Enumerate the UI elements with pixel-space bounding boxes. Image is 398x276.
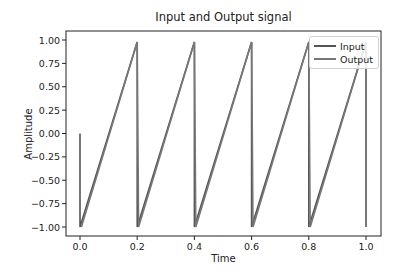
y-tick-label: 0.25 (39, 105, 60, 116)
x-tick-label: 0.2 (130, 241, 145, 252)
x-tick-label: 0.4 (187, 241, 202, 252)
series-output (81, 42, 366, 227)
legend: Input Output (309, 36, 379, 69)
x-tick-label: 1.0 (358, 241, 373, 252)
y-tick-label: −0.75 (31, 198, 60, 209)
y-tick-label: 0.75 (39, 58, 60, 69)
x-tick-label: 0.6 (244, 241, 259, 252)
y-tick-label: 0.00 (39, 128, 60, 139)
x-tick-label: 0.8 (301, 241, 316, 252)
y-tick-label: 0.50 (39, 81, 60, 92)
legend-item-input: Input (314, 40, 365, 52)
legend-item-output: Output (314, 53, 373, 65)
y-tick-label: 1.00 (39, 35, 60, 46)
x-tick-label: 0.0 (72, 241, 87, 252)
legend-label: Output (340, 54, 373, 65)
y-tick-label: −0.25 (31, 151, 60, 162)
y-tick-label: −0.50 (31, 175, 60, 186)
legend-label: Input (340, 41, 365, 52)
legend-line-icon (314, 58, 336, 60)
legend-line-icon (314, 45, 336, 47)
y-tick-label: −1.00 (31, 222, 60, 233)
